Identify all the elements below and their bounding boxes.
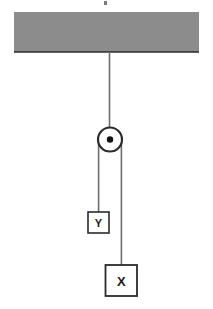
block-y-label: Y: [95, 217, 103, 229]
ceiling-beam: [14, 12, 199, 52]
pulley-axle-icon: [107, 136, 113, 142]
block-x-label: X: [117, 274, 126, 289]
top-crop-artifact: [104, 1, 107, 5]
diagram-svg: Y X: [0, 0, 213, 309]
pulley-diagram: Y X: [0, 0, 213, 309]
